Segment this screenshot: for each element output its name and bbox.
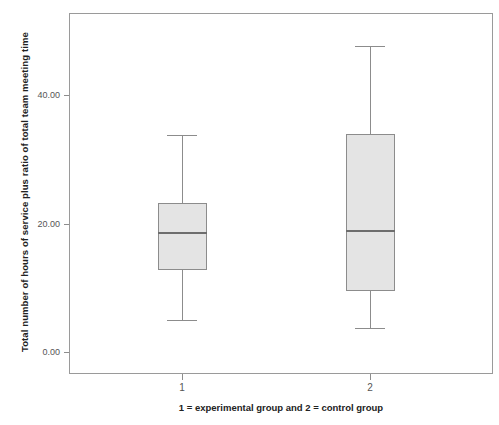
y-tick-mark	[64, 224, 69, 225]
x-tick-label: 1	[152, 382, 212, 394]
upper-whisker-cap	[167, 135, 197, 136]
box-rect	[346, 134, 395, 291]
x-tick-label: 2	[340, 382, 400, 394]
lower-whisker-cap	[355, 328, 385, 329]
median-line	[158, 232, 207, 234]
boxplot-chart: Total number of hours of service plus ra…	[0, 0, 499, 425]
x-axis-title: 1 = experimental group and 2 = control g…	[69, 402, 493, 413]
y-axis-title: Total number of hours of service plus ra…	[17, 0, 33, 352]
box-rect	[158, 203, 207, 270]
x-tick-mark	[182, 374, 183, 380]
y-tick-label: 20.00	[16, 219, 60, 229]
plot-frame	[69, 13, 493, 374]
y-tick-mark	[64, 95, 69, 96]
upper-whisker-cap	[355, 46, 385, 47]
upper-whisker-line	[182, 135, 183, 203]
x-tick-mark	[370, 374, 371, 380]
upper-whisker-line	[370, 46, 371, 134]
y-tick-label: 40.00	[16, 90, 60, 100]
y-tick-label: 0.00	[16, 347, 60, 357]
lower-whisker-line	[182, 270, 183, 320]
y-tick-mark	[64, 352, 69, 353]
median-line	[346, 230, 395, 232]
lower-whisker-cap	[167, 320, 197, 321]
lower-whisker-line	[370, 291, 371, 328]
